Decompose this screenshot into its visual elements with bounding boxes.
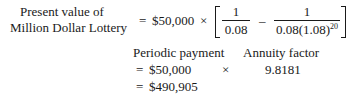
- fraction-1-numerator: 1: [222, 5, 250, 18]
- annuity-factor-header: Annuity factor: [243, 46, 319, 59]
- equals-sign: =: [136, 80, 143, 93]
- payment-amount: $50,000: [152, 14, 194, 27]
- fraction-2-denominator: 0.08(1.08)20: [274, 23, 340, 36]
- multiply-sign: ×: [222, 63, 229, 76]
- fraction-2: 1 0.08(1.08)20: [274, 5, 340, 36]
- payment-value: $50,000: [149, 63, 191, 76]
- equals-sign: =: [136, 63, 143, 76]
- denominator-base: 0.08(1.08): [276, 22, 330, 37]
- fraction-1: 1 0.08: [222, 5, 250, 36]
- left-bracket-icon: [215, 6, 220, 38]
- label-line2: Million Dollar Lottery: [10, 21, 127, 34]
- multiply-sign: ×: [200, 14, 207, 27]
- minus-sign: –: [259, 14, 266, 27]
- result-value: $490,905: [149, 80, 198, 93]
- annuity-factor-value: 9.8181: [265, 63, 301, 76]
- equals-sign: =: [139, 14, 146, 27]
- periodic-payment-header: Periodic payment: [133, 46, 224, 59]
- fraction-bar: [274, 20, 340, 21]
- fraction-1-denominator: 0.08: [222, 23, 250, 36]
- right-bracket-icon: [341, 6, 346, 38]
- exponent: 20: [330, 22, 338, 31]
- fraction-2-numerator: 1: [274, 5, 340, 18]
- label-line1: Present value of: [20, 5, 104, 18]
- fraction-bar: [222, 20, 250, 21]
